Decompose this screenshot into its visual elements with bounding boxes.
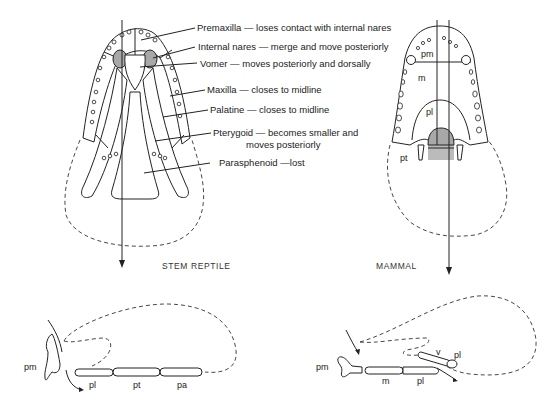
- incisive-foramen-right: [462, 56, 471, 65]
- arrowhead-icon: [453, 378, 458, 382]
- label-mammal-v: v: [436, 347, 441, 357]
- annotation-parasphenoid: Parasphenoid —lost: [219, 157, 305, 168]
- label-m: m: [418, 73, 426, 83]
- label-mammal-pm: pm: [316, 362, 329, 372]
- reptile-nasal-passage-inner: [64, 338, 111, 366]
- incisive-foramen-left: [407, 56, 416, 65]
- label-pm: pm: [421, 49, 434, 59]
- label-reptile-pa: pa: [177, 380, 187, 390]
- reptile-parasphenoid: [160, 368, 202, 376]
- pterygoid-hamulus-right: [457, 145, 463, 160]
- mammal-vomer: [418, 352, 450, 366]
- mammal-skull: pm m pl pt: [387, 20, 506, 275]
- stem-reptile-skull: [65, 20, 211, 268]
- mammal-premaxilla: [338, 357, 362, 377]
- arrowhead-icon: [355, 349, 360, 355]
- stem-reptile-sagittal-section: pm pl pt pa: [24, 304, 236, 392]
- label-mammal-pl: pl: [417, 376, 424, 386]
- reptile-nasal-passage-outline: [64, 304, 236, 372]
- label-mammal-m: m: [382, 376, 390, 386]
- reptile-premaxilla: [45, 334, 60, 380]
- annotation-internal-nares: Internal nares — merge and move posterio…: [198, 41, 389, 52]
- mammal-airflow-in-arrow: [346, 330, 358, 352]
- arrowhead-icon: [119, 260, 125, 268]
- mammal-caption: MAMMAL: [376, 261, 417, 271]
- skull-palate-evolution-diagram: Premaxilla — loses contact with internal…: [0, 0, 554, 409]
- annotation-pterygoid: Pterygoid — becomes smaller and: [213, 127, 358, 138]
- vomer: [125, 55, 145, 90]
- mammal-palatine-palate: [403, 367, 439, 374]
- reptile-pterygoid: [113, 368, 160, 376]
- annotation-palatine: Palatine — closes to midline: [210, 104, 329, 115]
- mammal-palatine-dorsal: [447, 360, 457, 368]
- label-reptile-pt: pt: [133, 380, 141, 390]
- label-reptile-pl: pl: [89, 380, 96, 390]
- annotation-premaxilla: Premaxilla — loses contact with internal…: [197, 22, 392, 33]
- annotation-maxilla: Maxilla — closes to midline: [207, 84, 322, 95]
- annotation-pterygoid-cont: moves posteriorly: [246, 139, 321, 150]
- arrowhead-icon: [79, 387, 84, 392]
- mammal-maxilla-palate: [365, 367, 403, 374]
- annotation-vomer: Vomer — moves posteriorly and dorsally: [200, 58, 371, 69]
- reptile-palatine: [75, 369, 113, 376]
- label-pl: pl: [426, 107, 433, 117]
- stem-reptile-caption: STEM REPTILE: [162, 261, 231, 271]
- mammal-maxilla-arch: [392, 26, 488, 145]
- label-pt: pt: [400, 153, 408, 163]
- label-reptile-pm: pm: [24, 362, 37, 372]
- arrowhead-icon: [446, 267, 452, 275]
- stem-reptile-annotations: Premaxilla — loses contact with internal…: [197, 22, 392, 168]
- label-mammal-pl-dorsal: pl: [454, 350, 461, 360]
- mammal-sagittal-section: pm m pl v pl: [316, 296, 536, 386]
- pterygoid-hamulus-left: [418, 145, 424, 160]
